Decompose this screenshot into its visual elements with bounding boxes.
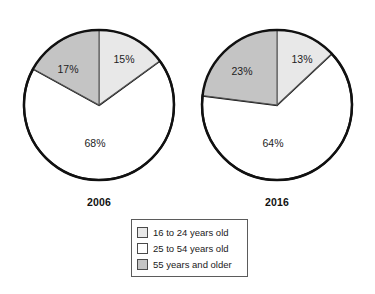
pie-chart-2006: 15% 17% 68% 2006 — [16, 22, 182, 208]
legend-swatch-16-to-24 — [137, 227, 148, 238]
pie-2016-svg: 13% 23% 64% — [194, 22, 360, 188]
legend-label-25-to-54: 25 to 54 years old — [153, 243, 229, 254]
legend-label-55-and-older: 55 years and older — [153, 259, 232, 270]
chart-legend: 16 to 24 years old 25 to 54 years old 55… — [131, 219, 248, 277]
year-label-2006: 2006 — [16, 196, 182, 208]
pie-2006-svg: 15% 17% 68% — [16, 22, 182, 188]
slice-label-2016-55-and-older: 23% — [231, 65, 252, 77]
pie-chart-2016: 13% 23% 64% 2016 — [194, 22, 360, 208]
slice-label-2006-55-and-older: 17% — [57, 63, 78, 75]
slice-label-2006-16-to-24: 15% — [113, 53, 134, 65]
legend-item-55-and-older: 55 years and older — [137, 256, 242, 272]
legend-label-16-to-24: 16 to 24 years old — [153, 227, 229, 238]
legend-swatch-55-and-older — [137, 259, 148, 270]
slice-label-2016-25-to-54: 64% — [262, 137, 283, 149]
year-label-2016: 2016 — [194, 196, 360, 208]
pie-chart-figure: 15% 17% 68% 2006 13% 23% 64% 2016 16 to … — [0, 0, 375, 294]
legend-item-25-to-54: 25 to 54 years old — [137, 240, 242, 256]
legend-item-16-to-24: 16 to 24 years old — [137, 224, 242, 240]
legend-swatch-25-to-54 — [137, 243, 148, 254]
slice-label-2006-25-to-54: 68% — [84, 137, 105, 149]
slice-label-2016-16-to-24: 13% — [291, 53, 312, 65]
